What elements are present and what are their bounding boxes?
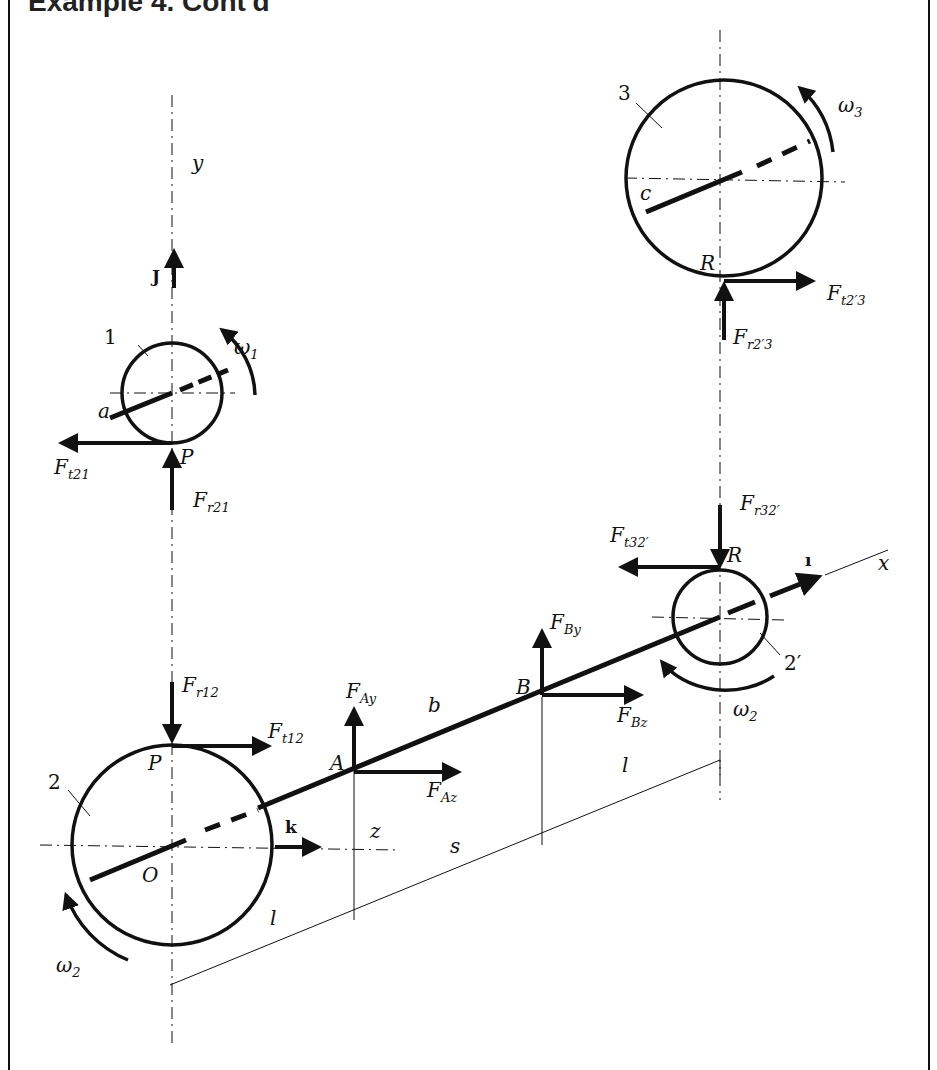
i-vector-label: ı [805,550,812,570]
y-axis-label: y [191,151,204,175]
fbz-label: FBz [616,703,647,730]
dimension-lines [170,697,720,985]
a-label: a [98,399,110,423]
omega2-arrow [66,895,128,960]
omega2-prime-label: ω2 [733,697,758,724]
p-label-gear1: P [179,445,194,469]
i-vector [770,577,818,596]
omega3-label: ω3 [838,93,863,120]
ft12-label: Ft12 [267,719,304,746]
p-label-gear2: P [147,751,162,775]
gear-circles [72,80,822,945]
s-label: s [450,834,460,858]
omega2-prime-arrow [662,662,774,690]
ft21-label: Ft21 [53,455,90,482]
r-label-gear2prime: R [726,543,742,567]
fay-label: FAy [345,679,377,706]
faz-label: FAz [426,778,457,805]
o-label: O [142,863,158,887]
fr21-label: Fr21 [192,488,230,515]
b-dimension-label: b [428,693,441,717]
omega2-label: ω2 [56,953,81,980]
b-bearing-label: B [515,675,531,699]
gear-2-label: 2 [48,770,61,794]
gear-3-label: 3 [618,81,631,105]
l-dimension-right: l [622,753,628,777]
gear-1-label: 1 [104,325,117,349]
x-axis-label: x [878,551,889,575]
j-vector-label: J [150,266,160,286]
ft23-label: Ft2′3 [826,281,866,308]
center-lines [40,30,845,1045]
ft32-label: Ft32′ [609,523,649,550]
fr23-label: Fr2′3 [732,325,773,352]
fr32-label: Fr32′ [739,491,780,518]
leader-lines [68,103,780,816]
z-label: z [369,819,381,843]
fr12-label: Fr12 [181,673,219,700]
r-label-gear3: R [699,251,715,275]
rotation-arrows [66,88,833,960]
k-vector-label: k [285,817,298,837]
c-label: c [640,181,651,205]
gear-2-prime-label: 2′ [784,651,802,675]
omega1-label: ω1 [234,335,259,362]
fby-label: FBy [549,610,581,637]
force-arrows [62,252,812,847]
a-bearing-label: A [328,751,344,775]
l-dimension-left: l [270,906,276,930]
